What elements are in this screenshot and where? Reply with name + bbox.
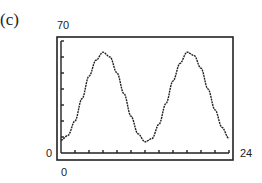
axes: [61, 41, 229, 153]
data-curve: [61, 52, 229, 142]
chart-plot: [0, 0, 262, 183]
